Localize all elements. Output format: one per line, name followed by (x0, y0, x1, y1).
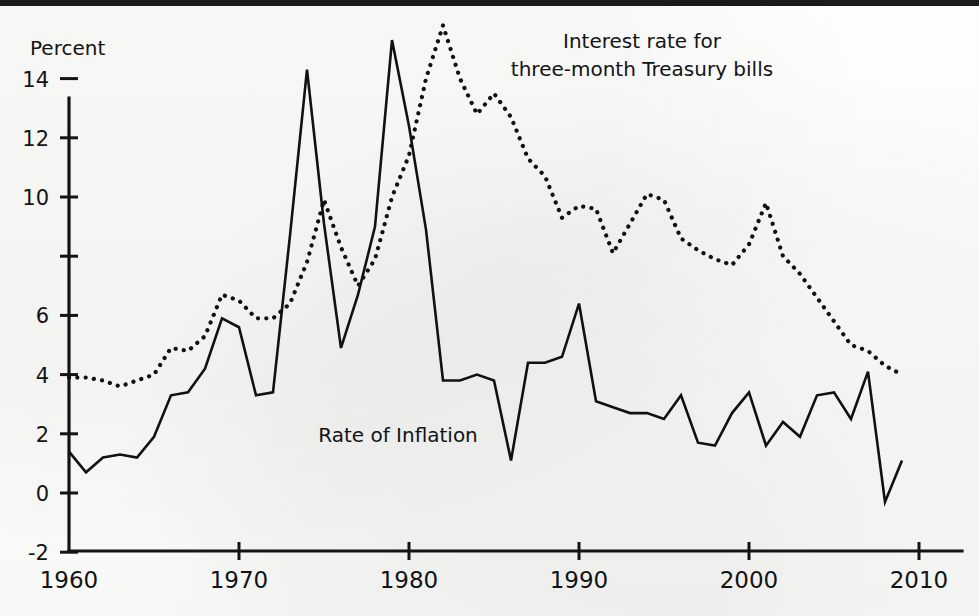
x-tick-label-1990: 1990 (550, 567, 609, 593)
y-tick-label-14: 14 (22, 68, 49, 92)
x-tick-label-2000: 2000 (720, 567, 779, 593)
y-axis-tick-labels: -20246101214 (22, 68, 49, 566)
y-axis-unit-label: Percent (30, 36, 105, 60)
annotation-treasury-line-1: Interest rate for (563, 29, 722, 53)
line-chart: Percent -20246101214 1960197019801990200… (0, 0, 979, 616)
y-tick-label-6: 6 (36, 304, 49, 328)
chart-page: Percent -20246101214 1960197019801990200… (0, 0, 979, 616)
y-tick-label-2: 2 (36, 423, 49, 447)
y-tick-label-0: 0 (36, 482, 49, 506)
y-tick-label-4: 4 (36, 364, 49, 388)
annotation-rate-of-inflation: Rate of Inflation (318, 423, 478, 447)
y-tick-label-12: 12 (22, 127, 49, 151)
x-axis-tick-labels: 196019701980199020002010 (40, 567, 949, 593)
x-tick-label-2010: 2010 (890, 567, 949, 593)
x-tick-label-1960: 1960 (40, 567, 99, 593)
y-tick-label--2: -2 (28, 541, 49, 565)
y-tick-label-10: 10 (22, 186, 49, 210)
x-tick-label-1970: 1970 (210, 567, 269, 593)
series-line-rate-of-inflation (69, 40, 902, 502)
series-line-treasury-bill-rate (69, 25, 902, 386)
annotation-treasury-line-2: three-month Treasury bills (511, 57, 773, 81)
x-tick-label-1980: 1980 (380, 567, 439, 593)
